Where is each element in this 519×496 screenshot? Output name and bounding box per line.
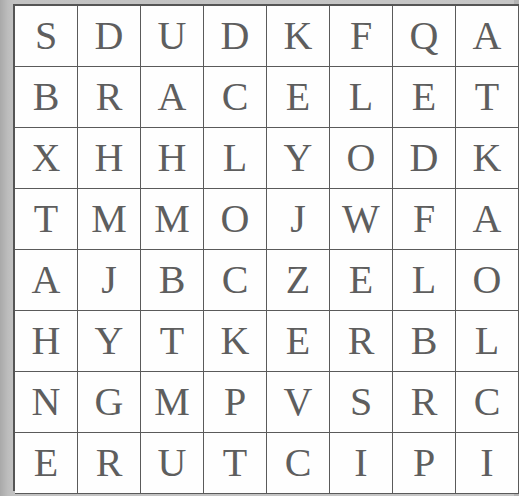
grid-cell[interactable]: F [330, 6, 393, 67]
grid-cell[interactable]: D [204, 6, 267, 67]
grid-cell[interactable]: H [141, 128, 204, 189]
grid-cell[interactable]: P [204, 372, 267, 433]
grid-cell[interactable]: B [15, 67, 78, 128]
grid-cell[interactable]: H [15, 311, 78, 372]
grid-cell[interactable]: W [330, 189, 393, 250]
grid-cell[interactable]: R [393, 372, 456, 433]
grid-cell[interactable]: K [204, 311, 267, 372]
grid-cell[interactable]: A [456, 6, 519, 67]
grid-cell[interactable]: M [141, 372, 204, 433]
grid-cell[interactable]: C [267, 433, 330, 494]
grid-cell[interactable]: E [393, 67, 456, 128]
grid-cell[interactable]: T [204, 433, 267, 494]
grid-cell[interactable]: H [78, 128, 141, 189]
grid-cell[interactable]: F [393, 189, 456, 250]
grid-cell[interactable]: R [78, 67, 141, 128]
grid-cell[interactable]: M [78, 189, 141, 250]
grid-cell[interactable]: C [456, 372, 519, 433]
grid-cell[interactable]: S [330, 372, 393, 433]
grid-cell[interactable]: I [330, 433, 393, 494]
grid-cell[interactable]: E [267, 67, 330, 128]
grid-cell[interactable]: O [204, 189, 267, 250]
grid-cell[interactable]: R [78, 433, 141, 494]
grid-cell[interactable]: T [456, 67, 519, 128]
grid-cell[interactable]: Q [393, 6, 456, 67]
grid-cell[interactable]: L [330, 67, 393, 128]
grid-cell[interactable]: U [141, 433, 204, 494]
grid-cell[interactable]: S [15, 6, 78, 67]
grid-cell[interactable]: I [456, 433, 519, 494]
grid-cell[interactable]: L [204, 128, 267, 189]
grid-cell[interactable]: D [393, 128, 456, 189]
grid-cell[interactable]: A [141, 67, 204, 128]
grid-cell[interactable]: O [456, 250, 519, 311]
grid-cell[interactable]: A [15, 250, 78, 311]
grid-cell[interactable]: K [267, 6, 330, 67]
grid-cell[interactable]: K [456, 128, 519, 189]
grid-cell[interactable]: B [393, 311, 456, 372]
grid-cell[interactable]: O [330, 128, 393, 189]
grid-cell[interactable]: L [456, 311, 519, 372]
grid-cell[interactable]: T [141, 311, 204, 372]
grid-cell[interactable]: Z [267, 250, 330, 311]
grid-cell[interactable]: M [141, 189, 204, 250]
grid-cell[interactable]: A [456, 189, 519, 250]
grid-cell[interactable]: R [330, 311, 393, 372]
grid-cell[interactable]: E [267, 311, 330, 372]
grid-cell[interactable]: B [141, 250, 204, 311]
grid-cell[interactable]: E [330, 250, 393, 311]
grid-cell[interactable]: U [141, 6, 204, 67]
grid-cell[interactable]: G [78, 372, 141, 433]
word-search-grid: S D U D K F Q A B R A C E L E T X H H L … [13, 4, 519, 491]
grid-cell[interactable]: Y [78, 311, 141, 372]
grid-cell[interactable]: P [393, 433, 456, 494]
grid-cell[interactable]: E [15, 433, 78, 494]
grid-cell[interactable]: X [15, 128, 78, 189]
grid-cell[interactable]: V [267, 372, 330, 433]
grid-cell[interactable]: N [15, 372, 78, 433]
grid-cell[interactable]: J [267, 189, 330, 250]
grid-cell[interactable]: C [204, 250, 267, 311]
grid-cell[interactable]: C [204, 67, 267, 128]
grid-cell[interactable]: Y [267, 128, 330, 189]
grid-cell[interactable]: D [78, 6, 141, 67]
grid-cell[interactable]: T [15, 189, 78, 250]
grid-cell[interactable]: L [393, 250, 456, 311]
grid-cell[interactable]: J [78, 250, 141, 311]
